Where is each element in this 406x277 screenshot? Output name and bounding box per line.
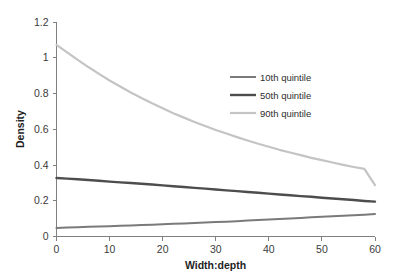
x-tick-label: 10 [104,243,116,255]
legend-label: 90th quintile [260,108,311,119]
y-tick-label: 1 [43,51,49,63]
x-tick-label: 40 [263,243,275,255]
x-tick-label: 0 [54,243,60,255]
y-tick-label: 0.6 [34,123,49,135]
density-line-chart: 00.20.40.60.811.2 0102030405060 10th qui… [0,0,406,277]
x-tick-label: 60 [369,243,381,255]
y-axis-title: Density [14,110,26,148]
y-tick-label: 0.4 [34,159,49,171]
legend-label: 10th quintile [260,72,311,83]
y-tick-label: 1.2 [34,16,49,28]
y-tick-label: 0.8 [34,87,49,99]
y-tick-label: 0 [43,230,49,242]
x-axis-title: Width:depth [185,259,246,271]
x-tick-label: 50 [316,243,328,255]
x-tick-label: 20 [157,243,169,255]
legend-label: 50th quintile [260,90,311,101]
chart-figure: 00.20.40.60.811.2 0102030405060 10th qui… [0,0,406,277]
x-tick-label: 30 [210,243,222,255]
chart-background [0,0,406,277]
y-tick-label: 0.2 [34,194,49,206]
